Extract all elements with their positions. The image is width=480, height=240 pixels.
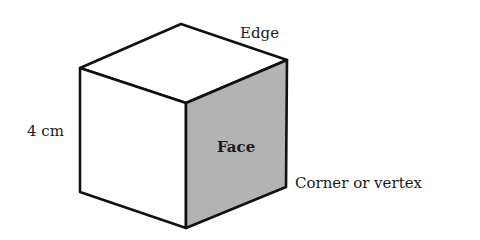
cube-diagram: Edge 4 cm Face Corner or vertex xyxy=(0,0,480,240)
edge-label: Edge xyxy=(240,24,279,42)
side-length-label: 4 cm xyxy=(27,122,64,140)
vertex-label: Corner or vertex xyxy=(295,174,423,192)
face-label: Face xyxy=(217,138,255,156)
